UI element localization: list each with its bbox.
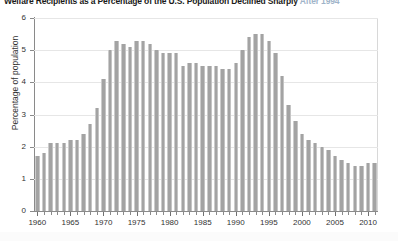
bar	[167, 53, 171, 211]
bar	[247, 37, 251, 211]
x-tick-label: 1965	[53, 218, 87, 227]
bar	[227, 69, 231, 211]
bar	[128, 47, 132, 211]
x-tick-mark-major	[70, 212, 71, 216]
x-tick-label: 1995	[252, 218, 286, 227]
x-tick-label: 1970	[86, 218, 120, 227]
x-tick-mark	[130, 212, 131, 215]
x-tick-mark	[123, 212, 124, 215]
bar	[68, 140, 72, 211]
chart-title-main: Welfare Recipients as a Percentage of th…	[4, 0, 298, 6]
bar	[267, 41, 271, 211]
x-tick-mark	[189, 212, 190, 215]
bar	[81, 134, 85, 211]
x-tick-mark	[216, 212, 217, 215]
bar	[300, 134, 304, 211]
bar	[326, 150, 330, 211]
x-tick-mark	[223, 212, 224, 215]
bar	[114, 41, 118, 211]
x-tick-label: 2000	[285, 218, 319, 227]
x-tick-label: 1975	[120, 218, 154, 227]
x-tick-mark	[57, 212, 58, 215]
bar	[293, 121, 297, 211]
x-tick-mark	[90, 212, 91, 215]
x-tick-label: 1990	[219, 218, 253, 227]
bar	[88, 124, 92, 211]
x-tick-mark	[256, 212, 257, 215]
footer-strip	[0, 232, 398, 241]
bar	[320, 147, 324, 211]
x-tick-mark	[97, 212, 98, 215]
x-tick-mark	[156, 212, 157, 215]
x-tick-mark	[328, 212, 329, 215]
x-tick-mark-major	[103, 212, 104, 216]
x-tick-mark	[143, 212, 144, 215]
bar	[62, 143, 66, 211]
bar	[333, 156, 337, 211]
x-tick-mark	[315, 212, 316, 215]
x-tick-mark	[309, 212, 310, 215]
x-tick-mark	[229, 212, 230, 215]
x-tick-mark	[44, 212, 45, 215]
x-tick-mark	[150, 212, 151, 215]
x-axis-line	[34, 211, 378, 212]
bar	[214, 66, 218, 211]
bar	[194, 63, 198, 211]
x-tick-mark	[84, 212, 85, 215]
x-tick-mark	[242, 212, 243, 215]
x-tick-label: 1960	[20, 218, 54, 227]
x-tick-mark	[51, 212, 52, 215]
bar	[240, 50, 244, 211]
chart-title-tail: After 1994	[300, 0, 340, 6]
x-tick-mark	[163, 212, 164, 215]
x-tick-mark	[355, 212, 356, 215]
bar	[346, 163, 350, 211]
x-tick-mark-major	[269, 212, 270, 216]
x-tick-mark	[117, 212, 118, 215]
x-tick-mark-major	[335, 212, 336, 216]
bar	[75, 140, 79, 211]
welfare-recipients-bar-chart: Welfare Recipients as a Percentage of th…	[0, 0, 398, 241]
bar	[260, 34, 264, 211]
bar	[313, 143, 317, 211]
x-tick-mark	[275, 212, 276, 215]
chart-title: Welfare Recipients as a Percentage of th…	[4, 0, 396, 6]
bar	[154, 50, 158, 211]
x-tick-mark	[342, 212, 343, 215]
x-tick-mark	[249, 212, 250, 215]
x-tick-mark	[77, 212, 78, 215]
y-tick-label: 1	[2, 175, 26, 183]
x-tick-label: 1980	[153, 218, 187, 227]
bar	[95, 108, 99, 211]
y-tick-mark	[30, 211, 34, 212]
bar	[174, 53, 178, 211]
bar	[353, 166, 357, 211]
x-tick-mark	[295, 212, 296, 215]
x-tick-mark	[289, 212, 290, 215]
x-tick-mark	[110, 212, 111, 215]
bar	[48, 143, 52, 211]
bar	[148, 44, 152, 211]
x-tick-mark	[375, 212, 376, 215]
x-tick-mark	[64, 212, 65, 215]
x-tick-mark	[176, 212, 177, 215]
bar	[200, 66, 204, 211]
x-tick-mark	[209, 212, 210, 215]
x-tick-label: 1985	[186, 218, 220, 227]
bar	[273, 53, 277, 211]
y-axis-label: Percentage of population	[10, 13, 20, 153]
bar	[359, 166, 363, 211]
bar	[35, 156, 39, 211]
bar	[366, 163, 370, 211]
x-tick-mark-major	[137, 212, 138, 216]
bar	[101, 79, 105, 211]
bar	[253, 34, 257, 211]
bar	[42, 153, 46, 211]
bar	[234, 63, 238, 211]
bar	[187, 63, 191, 211]
x-tick-mark	[348, 212, 349, 215]
x-tick-mark-major	[203, 212, 204, 216]
bar	[286, 105, 290, 211]
bar	[220, 69, 224, 211]
x-tick-mark-major	[302, 212, 303, 216]
